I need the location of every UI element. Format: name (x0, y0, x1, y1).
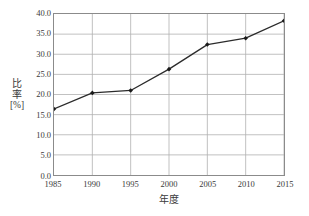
y-axis-tick-label: 40.0 (27, 9, 51, 18)
y-axis-tick-label: 15.0 (27, 111, 51, 120)
y-axis-tick-label: 25.0 (27, 70, 51, 79)
y-axis-tick-label: 10.0 (27, 131, 51, 140)
x-axis-tick-label: 2015 (265, 179, 305, 189)
y-axis-tick-label: 20.0 (27, 90, 51, 99)
x-axis-tick-label: 2000 (149, 179, 189, 189)
x-axis-tick-label: 1990 (72, 179, 112, 189)
data-point-marker (282, 19, 284, 24)
x-axis-tick-labels: 1985199019952000200520102015 (53, 179, 285, 193)
y-axis-tick-label: 35.0 (27, 29, 51, 38)
data-point-marker (243, 36, 248, 41)
x-axis-title: 年度 (53, 194, 285, 206)
data-point-marker (54, 107, 56, 112)
x-axis-tick-label: 1985 (33, 179, 73, 189)
x-axis-tick-label: 1995 (110, 179, 150, 189)
plot-area (53, 13, 285, 176)
series-polyline (54, 21, 284, 109)
x-axis-tick-label: 2005 (188, 179, 228, 189)
line-chart: 比 率 [%] 0.05.010.015.020.025.030.035.040… (0, 0, 309, 216)
x-axis-tick-label: 2010 (226, 179, 266, 189)
data-point-marker (90, 91, 95, 96)
y-axis-tick-label: 30.0 (27, 50, 51, 59)
data-series-line (54, 14, 284, 175)
y-axis-tick-label: 5.0 (27, 151, 51, 160)
